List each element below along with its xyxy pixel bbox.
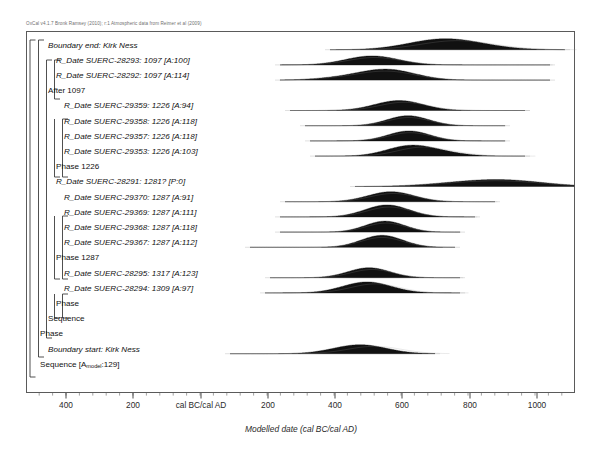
axis-tick-label: 400 — [59, 400, 73, 410]
axis-tick-label: 600 — [395, 400, 409, 410]
axis-tick-label: 200 — [126, 400, 140, 410]
oxcal-plot-page: OxCal v4.1.7 Bronk Ramsey (2010); r:1 At… — [0, 0, 606, 453]
axis-tick-label: 200 — [261, 400, 275, 410]
axis-tick-label: 400 — [328, 400, 342, 410]
axis-title: Modelled date (cal BC/cal AD) — [245, 424, 357, 434]
axis-tick-label: cal BC/cal AD — [176, 400, 227, 410]
axis-tick-label: 1000 — [528, 400, 546, 410]
axis-tick-label: 800 — [463, 400, 477, 410]
axis-canvas — [0, 0, 606, 453]
